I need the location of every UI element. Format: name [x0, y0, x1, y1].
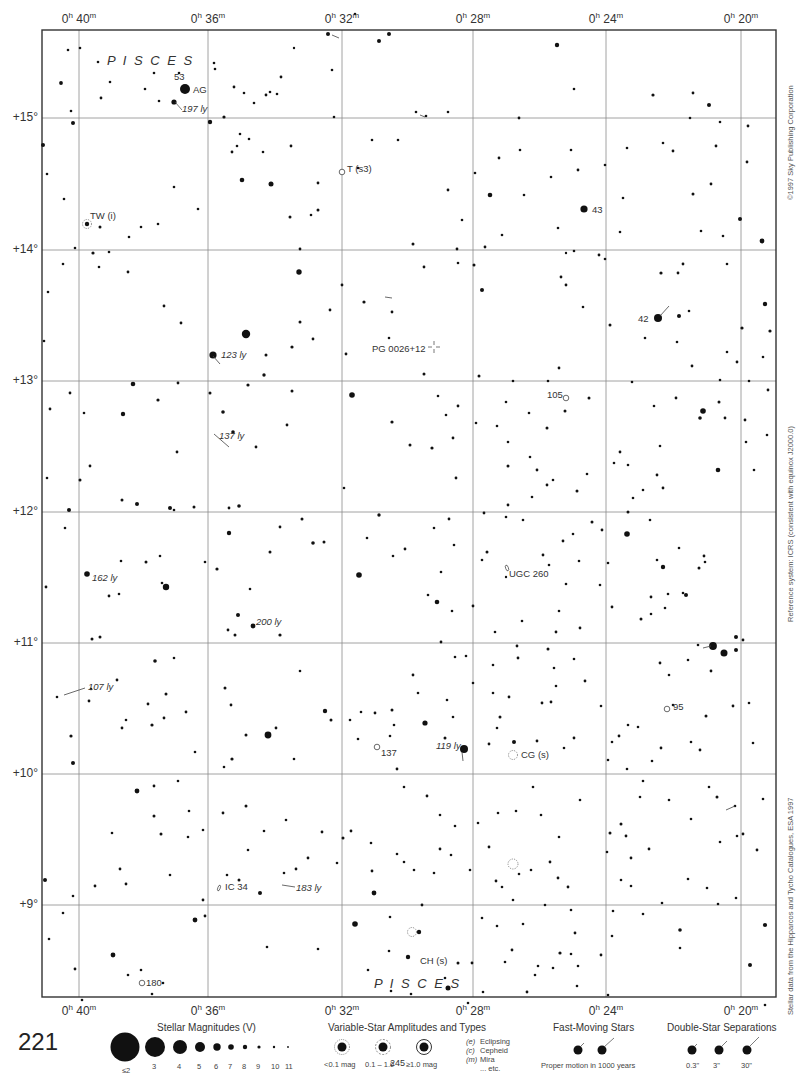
star — [64, 527, 67, 530]
galaxy-icon — [505, 565, 510, 572]
star — [574, 932, 577, 935]
star — [630, 857, 633, 860]
star — [391, 311, 394, 314]
star — [389, 916, 392, 919]
star — [440, 641, 443, 644]
star — [557, 227, 560, 230]
star — [692, 92, 695, 95]
star — [565, 284, 568, 287]
star — [481, 559, 484, 562]
star — [766, 434, 769, 437]
star — [471, 962, 474, 965]
star — [456, 248, 459, 251]
star — [121, 499, 124, 502]
star — [648, 848, 651, 851]
star — [158, 100, 161, 103]
star — [275, 727, 278, 730]
star — [388, 950, 391, 953]
star — [688, 310, 691, 313]
star — [127, 974, 130, 977]
star — [676, 341, 679, 344]
star — [119, 868, 122, 871]
star — [653, 405, 656, 408]
star — [349, 719, 352, 722]
star — [150, 723, 153, 726]
star — [156, 398, 159, 401]
star — [417, 930, 421, 934]
star — [370, 842, 373, 845]
star — [762, 798, 765, 801]
star — [699, 749, 702, 752]
star — [439, 848, 442, 851]
star — [716, 468, 721, 473]
object-label: CH (s) — [420, 955, 447, 966]
star — [703, 555, 706, 558]
star — [296, 269, 301, 274]
magnitude-swatch — [111, 1033, 140, 1062]
object-label: 53 — [174, 71, 185, 82]
deep-sky-markers — [139, 169, 670, 986]
star — [453, 544, 456, 547]
variable-type-code: (e) — [466, 1037, 475, 1046]
star — [519, 149, 522, 152]
star — [536, 740, 539, 743]
star — [417, 692, 420, 695]
star — [163, 305, 166, 308]
star — [620, 823, 623, 826]
star — [667, 593, 670, 596]
page-number: 221 — [18, 1028, 58, 1056]
star — [452, 437, 455, 440]
star — [573, 88, 576, 91]
star — [549, 861, 552, 864]
star — [84, 571, 90, 577]
star — [478, 375, 481, 378]
object-label: IC 34 — [225, 881, 248, 892]
star — [135, 502, 139, 506]
star — [650, 596, 653, 599]
star — [433, 872, 436, 875]
variable-amplitude-label: 0.1 – 1.0 — [365, 1060, 394, 1069]
star — [71, 121, 75, 125]
star — [488, 193, 493, 198]
star — [242, 330, 250, 338]
star — [62, 912, 65, 915]
star-field — [41, 13, 772, 1007]
star — [560, 276, 563, 279]
star — [630, 885, 633, 888]
legend-magnitudes-title: Stellar Magnitudes (V) — [157, 1022, 256, 1033]
star — [719, 121, 722, 124]
star — [496, 925, 499, 928]
star — [286, 424, 289, 427]
star — [412, 674, 415, 677]
star — [71, 761, 75, 765]
star — [70, 110, 73, 113]
data-source-note: Stellar data from the Hipparcos and Tych… — [786, 798, 795, 1016]
star — [542, 554, 545, 557]
star — [356, 572, 362, 578]
star — [748, 702, 751, 705]
object-label: UGC 260 — [509, 568, 549, 579]
star — [188, 810, 191, 813]
star — [326, 32, 330, 36]
star — [505, 516, 508, 519]
star — [547, 380, 550, 383]
star — [660, 747, 663, 750]
ra-tick-label: 0h 20m — [724, 11, 759, 26]
star — [501, 234, 504, 237]
star — [521, 620, 524, 623]
star — [530, 869, 533, 872]
star — [83, 412, 86, 415]
proper-motion-vector — [385, 297, 392, 298]
star — [454, 825, 457, 828]
star — [208, 120, 212, 124]
star — [187, 836, 190, 839]
proper-motion-vector — [420, 115, 425, 117]
star — [357, 738, 360, 741]
star — [469, 869, 472, 872]
star — [128, 236, 131, 239]
star — [523, 194, 526, 197]
star — [265, 732, 272, 739]
star — [209, 392, 212, 395]
star — [371, 139, 374, 142]
magnitude-swatch — [228, 1044, 234, 1050]
